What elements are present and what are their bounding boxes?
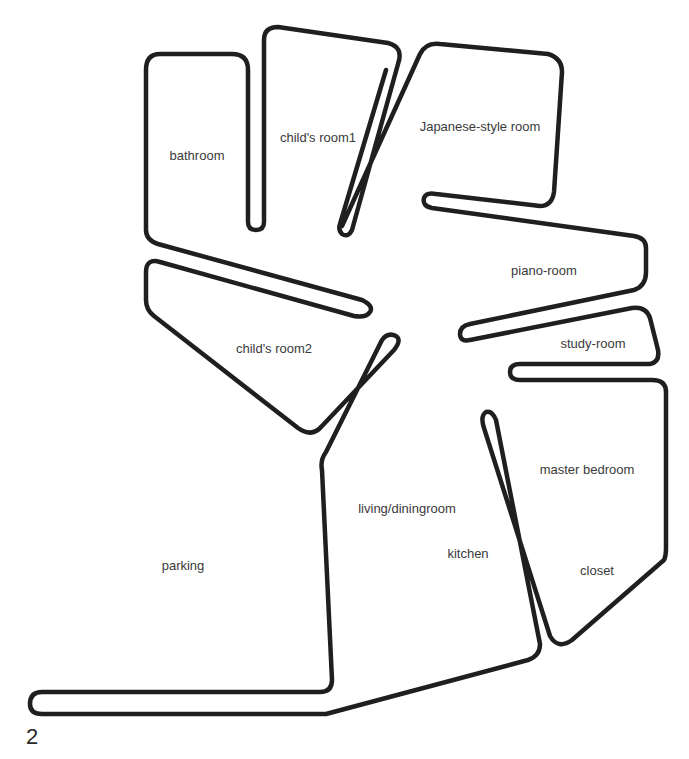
room-label-study-room: study-room: [560, 337, 625, 350]
room-label-childs-room2: child's room2: [236, 342, 312, 355]
room-label-master-bedroom: master bedroom: [540, 463, 635, 476]
figure-number: 2: [26, 726, 38, 748]
room-label-piano-room: piano-room: [511, 264, 577, 277]
room-label-living-diningroom: living/diningroom: [358, 502, 456, 515]
room-label-bathroom: bathroom: [170, 149, 225, 162]
room-label-japanese-style-room: Japanese-style room: [420, 120, 541, 133]
room-label-parking: parking: [162, 559, 205, 572]
floor-plan-diagram: [0, 0, 689, 759]
room-label-closet: closet: [580, 564, 614, 577]
room-label-kitchen: kitchen: [447, 547, 488, 560]
room-label-childs-room1: child's room1: [280, 131, 356, 144]
